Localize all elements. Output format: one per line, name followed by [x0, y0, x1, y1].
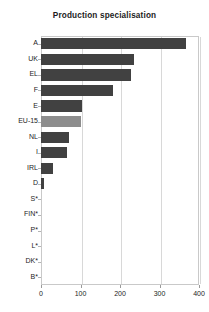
bars-layer [41, 36, 199, 285]
x-axis-tick [41, 285, 42, 288]
bar-row [41, 38, 199, 49]
y-axis-label: A [0, 39, 38, 46]
bar-row [41, 194, 199, 205]
y-axis-label: F [0, 86, 38, 93]
bar-row [41, 240, 199, 251]
bar-row [41, 116, 199, 127]
y-axis-label: I [0, 148, 38, 155]
bar-row [41, 69, 199, 80]
bar-i [41, 147, 67, 158]
y-axis-labels: AUKELFEEU-15NLIIRLDS*FIN*P*L*DK*B* [0, 36, 38, 285]
x-axis-tick [81, 285, 82, 288]
x-axis-label: 300 [154, 290, 166, 297]
bar-d [41, 178, 44, 189]
bar-row [41, 209, 199, 220]
y-axis-label: L* [0, 242, 38, 249]
bar-row [41, 256, 199, 267]
bar-nl [41, 132, 69, 143]
x-axis-tick [160, 285, 161, 288]
bar-a [41, 38, 186, 49]
x-axis-label: 400 [193, 290, 205, 297]
y-axis-label: EU-15 [0, 117, 38, 124]
bar-irl [41, 163, 53, 174]
y-axis-label: P* [0, 226, 38, 233]
x-axis-label: 100 [75, 290, 87, 297]
bar-row [41, 272, 199, 283]
bar-row [41, 225, 199, 236]
gridline [200, 37, 201, 284]
bar-e [41, 100, 82, 111]
bar-row [41, 163, 199, 174]
y-axis-label: D [0, 179, 38, 186]
y-axis-label: E [0, 102, 38, 109]
x-axis-label: 200 [114, 290, 126, 297]
bar-row [41, 147, 199, 158]
y-axis-label: UK [0, 55, 38, 62]
chart-title: Production specialisation [0, 11, 209, 20]
bar-eu-15 [41, 116, 81, 127]
y-axis-label: DK* [0, 257, 38, 264]
production-specialisation-chart: Production specialisation AUKELFEEU-15NL… [0, 0, 209, 312]
y-axis-label: IRL [0, 164, 38, 171]
bar-uk [41, 54, 134, 65]
y-axis-label: S* [0, 195, 38, 202]
bar-f [41, 85, 113, 96]
x-axis-tick [120, 285, 121, 288]
x-axis: 0100200300400 [41, 285, 199, 307]
bar-row [41, 54, 199, 65]
bar-row [41, 100, 199, 111]
y-axis-label: FIN* [0, 210, 38, 217]
y-axis-label: NL [0, 133, 38, 140]
bar-el [41, 69, 131, 80]
y-axis-label: EL [0, 70, 38, 77]
bar-row [41, 85, 199, 96]
x-axis-tick [199, 285, 200, 288]
y-axis-label: B* [0, 273, 38, 280]
bar-row [41, 178, 199, 189]
bar-row [41, 132, 199, 143]
x-axis-label: 0 [39, 290, 43, 297]
